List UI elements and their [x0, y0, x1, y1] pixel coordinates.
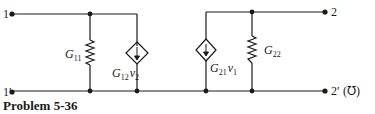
arrow-head-icon — [135, 56, 140, 60]
terminal-1-label: 1 — [3, 7, 9, 21]
g12-label: G12v2 — [112, 66, 139, 82]
terminal-2-label: 2 — [331, 5, 337, 19]
resistor-g11-icon — [86, 40, 94, 65]
terminal-2p-label: 2′ — [331, 84, 340, 98]
terminal-2p-node — [322, 88, 327, 93]
g22-symbol: G — [264, 43, 273, 57]
circuit-diagram: 1 1′ 2 2′ (℧) G11 G12v2 G21v1 G22 Proble… — [0, 0, 375, 114]
junction-node — [204, 89, 209, 94]
junction-node — [250, 89, 255, 94]
resistor-g22-icon — [248, 36, 256, 63]
unit-label: (℧) — [343, 84, 360, 98]
arrow-head-icon — [204, 52, 209, 56]
g21-label: G21v1 — [210, 61, 237, 77]
g11-symbol: G — [65, 47, 74, 61]
g21-subscript: 21 — [219, 68, 227, 77]
g11-subscript: 11 — [74, 54, 82, 63]
g21-symbol: G — [210, 61, 219, 75]
g21-var-subscript: 1 — [233, 68, 237, 77]
g11-label: G11 — [65, 47, 81, 63]
junction-node — [250, 10, 255, 15]
terminal-1p-label: 1′ — [3, 85, 12, 99]
g12-symbol: G — [112, 66, 121, 80]
junction-node — [88, 12, 93, 17]
junction-node — [135, 89, 140, 94]
g22-label: G22 — [264, 43, 281, 59]
g22-subscript: 22 — [273, 50, 281, 59]
junction-node — [88, 89, 93, 94]
terminal-1-node — [9, 11, 14, 16]
figure-caption: Problem 5-36 — [3, 98, 78, 113]
g12-subscript: 12 — [121, 73, 129, 82]
g12-var-subscript: 2 — [135, 73, 139, 82]
terminal-2-node — [322, 9, 327, 14]
